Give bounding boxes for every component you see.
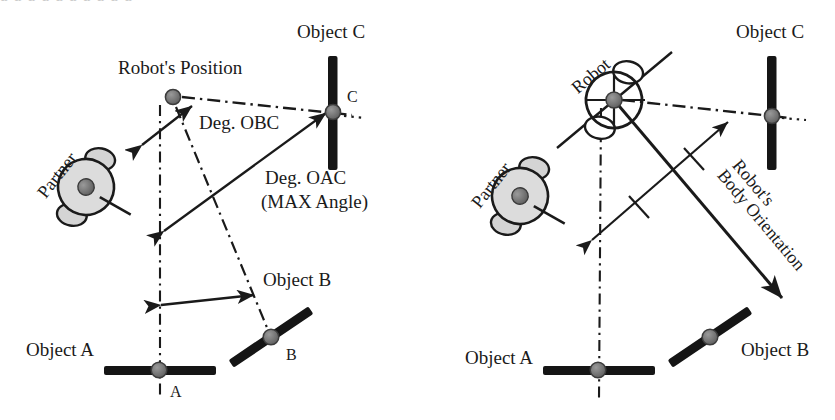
- label-object-b-left: Object B: [263, 270, 331, 291]
- robot-center-dot-right: [606, 92, 622, 108]
- object-b-dot-right: [702, 329, 718, 345]
- reference-line-a-right: [599, 108, 601, 398]
- deg-obc-arrow: [142, 106, 192, 145]
- label-point-c-left: C: [347, 88, 358, 105]
- label-max-angle: (MAX Angle): [261, 192, 368, 213]
- reference-line-b-left: [176, 107, 268, 330]
- label-point-a-left: A: [170, 383, 182, 400]
- figure-canvas: a a a a a a a a a a: [0, 0, 835, 420]
- object-c-dot-right: [764, 108, 779, 123]
- label-deg-oac: Deg. OAC: [265, 168, 346, 189]
- c-tail-left: [344, 116, 366, 118]
- equal-angle-arrow: [592, 122, 728, 240]
- object-a-dot-left: [151, 362, 167, 378]
- object-a-dot-right: [590, 362, 606, 378]
- label-deg-obc: Deg. OBC: [199, 113, 279, 134]
- robot-position-dot-left: [165, 89, 180, 104]
- deg-oab-arrow: [161, 295, 254, 305]
- object-c-dot-left: [325, 104, 340, 119]
- label-robots-position: Robot's Position: [118, 58, 242, 79]
- label-point-b-left: B: [286, 346, 297, 363]
- object-b-dot-left: [263, 329, 279, 345]
- label-object-a-left: Object A: [26, 340, 94, 361]
- label-object-a-right: Object A: [465, 348, 533, 369]
- label-object-c-right: Object C: [736, 22, 804, 43]
- label-object-b-right: Object B: [741, 340, 809, 361]
- label-object-c-left: Object C: [297, 22, 365, 43]
